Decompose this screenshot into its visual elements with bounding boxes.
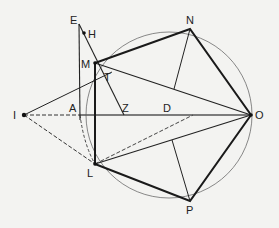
line-P-foot — [172, 140, 190, 201]
line-MO — [95, 63, 251, 115]
label-Z: Z — [122, 102, 129, 114]
point-L — [93, 162, 97, 166]
diagram-canvas: E H M T N I A Z D O L P — [0, 0, 279, 228]
label-O: O — [255, 109, 264, 121]
label-D: D — [163, 102, 171, 114]
label-E: E — [70, 14, 77, 26]
label-I: I — [13, 109, 16, 121]
label-T: T — [104, 71, 111, 83]
point-H — [82, 31, 86, 35]
point-I — [22, 113, 26, 117]
label-N: N — [186, 14, 194, 26]
label-H: H — [88, 28, 96, 40]
arc-AL — [80, 115, 95, 164]
line-LO — [95, 115, 251, 164]
line-LD-dashed — [95, 115, 193, 164]
line-IM — [24, 72, 112, 115]
line-EA — [79, 24, 80, 120]
label-M: M — [81, 58, 90, 70]
geometry-figure: E H M T N I A Z D O L P — [0, 0, 279, 228]
line-IL-dashed — [24, 115, 95, 164]
point-O — [249, 113, 253, 117]
label-A: A — [69, 102, 77, 114]
point-M — [93, 61, 97, 65]
label-P: P — [186, 204, 193, 216]
label-L: L — [87, 167, 93, 179]
line-N-foot — [174, 29, 190, 89]
